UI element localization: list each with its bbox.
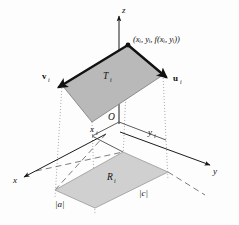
vector-u-label-subscript: i bbox=[180, 79, 182, 85]
tick-y-label: y bbox=[147, 127, 152, 137]
tick-x-label-group: x i bbox=[89, 124, 98, 136]
surface-point-label: (xᵢ, yᵢ, f(xᵢ, yᵢ)) bbox=[133, 34, 180, 44]
vector-u-label-group: u i bbox=[173, 73, 182, 85]
vector-u-label: u bbox=[173, 73, 178, 83]
length-a-label: |a| bbox=[55, 199, 64, 209]
vector-v-label-group: v i bbox=[42, 71, 50, 83]
top-region-parallelogram bbox=[62, 45, 163, 122]
dotted-connector-left bbox=[55, 85, 62, 198]
vector-v-label-subscript: i bbox=[48, 77, 50, 83]
tick-x-label: x bbox=[89, 124, 94, 134]
top-region-label: T bbox=[103, 71, 109, 81]
tick-segment-y bbox=[119, 122, 166, 140]
dotted-connector-right bbox=[163, 75, 168, 180]
dashed-line-right-edge bbox=[168, 172, 205, 195]
diagram-svg: z x y O (xᵢ, yᵢ, f(xᵢ, yᵢ)) T i R i v i … bbox=[0, 0, 239, 225]
bottom-region-label: R bbox=[106, 172, 113, 182]
vector-v-label: v bbox=[42, 71, 47, 81]
tick-y-label-group: y i bbox=[147, 127, 156, 139]
x-axis-label: x bbox=[12, 175, 17, 185]
figure-container: z x y O (xᵢ, yᵢ, f(xᵢ, yᵢ)) T i R i v i … bbox=[0, 0, 239, 225]
y-axis-label: y bbox=[212, 166, 217, 176]
surface-point-dot bbox=[126, 43, 131, 48]
z-axis-label: z bbox=[121, 5, 126, 15]
origin-label: O bbox=[108, 112, 115, 122]
length-c-label: |c| bbox=[139, 188, 148, 198]
